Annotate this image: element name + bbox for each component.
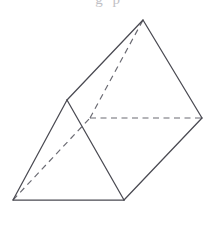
figure-canvas: g p: [0, 0, 218, 227]
triangular-prism-drawing: [0, 0, 218, 227]
